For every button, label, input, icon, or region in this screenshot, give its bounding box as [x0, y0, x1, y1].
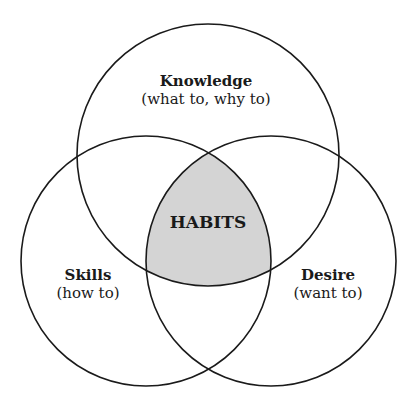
skills-subtitle: (how to) — [56, 284, 119, 302]
habits-venn-diagram: Knowledge (what to, why to) Skills (how … — [0, 0, 416, 404]
desire-title: Desire — [301, 266, 355, 284]
skills-title: Skills — [65, 266, 112, 284]
knowledge-title: Knowledge — [160, 72, 253, 90]
habits-label: HABITS — [170, 212, 247, 232]
knowledge-subtitle: (what to, why to) — [141, 90, 270, 108]
desire-subtitle: (want to) — [293, 284, 362, 302]
